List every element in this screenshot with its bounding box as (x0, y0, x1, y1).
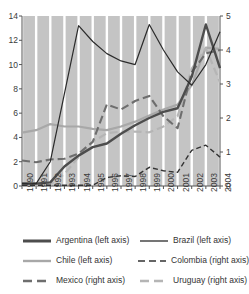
x-axis-tick-label: 2004 (224, 173, 233, 192)
legend-label: Brazil (left axis) (173, 236, 231, 245)
y-axis-left-tick-label: 14 (0, 12, 18, 21)
y-axis-left-tick-label: 10 (0, 61, 18, 70)
x-axis-tick-label: 1992 (54, 173, 63, 192)
legend-color-swatch-icon (140, 236, 168, 246)
legend-label: Argentina (left axis) (56, 236, 129, 245)
legend-item[interactable]: Brazil (left axis) (132, 231, 249, 250)
x-axis-tick-label: 2003 (210, 173, 219, 192)
x-axis-tick-label: 1993 (68, 173, 77, 192)
legend-row: Argentina (left axis)Brazil (left axis) (0, 231, 249, 250)
x-axis-tick-label: 1994 (83, 173, 92, 192)
y-axis-right-tick-label: 1 (226, 148, 231, 157)
legend-label: Mexico (right axis) (56, 276, 125, 285)
legend-item[interactable]: Colombia (right axis) (130, 251, 249, 270)
chart-legend: Argentina (left axis)Brazil (left axis)C… (0, 231, 249, 294)
legend-item[interactable]: Argentina (left axis) (0, 231, 132, 250)
legend-color-swatch-icon (23, 276, 51, 286)
chart-plot-area (0, 0, 249, 228)
y-axis-left-tick-label: 12 (0, 36, 18, 45)
legend-color-swatch-icon (23, 256, 51, 266)
y-axis-left-tick-label: 8 (0, 85, 18, 94)
x-axis-tick-label: 1998 (139, 173, 148, 192)
x-axis-tick-label: 2000 (167, 173, 176, 192)
legend-row: Mexico (right axis)Uruguay (right axis) (0, 271, 249, 290)
x-axis-tick-label: 1990 (26, 173, 35, 192)
legend-item[interactable]: Uruguay (right axis) (132, 271, 249, 290)
x-axis-tick-label: 1996 (111, 173, 120, 192)
y-axis-left-tick-label: 0 (0, 182, 18, 191)
legend-label: Colombia (right axis) (171, 256, 249, 265)
legend-color-swatch-icon (23, 236, 51, 246)
x-axis-tick-label: 1999 (153, 173, 162, 192)
x-axis-tick-label: 2002 (196, 173, 205, 192)
y-axis-right-tick-label: 2 (226, 114, 231, 123)
legend-row: Chile (left axis)Colombia (right axis) (0, 251, 249, 270)
legend-color-swatch-icon (138, 256, 166, 266)
line-chart: 0246810121401234519901991199219931994199… (0, 0, 249, 228)
y-axis-left-tick-label: 4 (0, 133, 18, 142)
x-axis-tick-label: 1991 (40, 173, 49, 192)
y-axis-right-tick-label: 4 (226, 46, 231, 55)
legend-label: Chile (left axis) (56, 256, 112, 265)
y-axis-right-tick-label: 5 (226, 12, 231, 21)
x-axis-tick-label: 1995 (97, 173, 106, 192)
x-axis-tick-label: 2001 (182, 173, 191, 192)
legend-color-swatch-icon (140, 276, 168, 286)
y-axis-left-tick-label: 2 (0, 158, 18, 167)
legend-item[interactable]: Mexico (right axis) (0, 271, 132, 290)
legend-label: Uruguay (right axis) (173, 276, 247, 285)
y-axis-right-tick-label: 3 (226, 80, 231, 89)
y-axis-left-tick-label: 6 (0, 109, 18, 118)
x-axis-tick-label: 1997 (125, 173, 134, 192)
legend-item[interactable]: Chile (left axis) (0, 251, 130, 270)
